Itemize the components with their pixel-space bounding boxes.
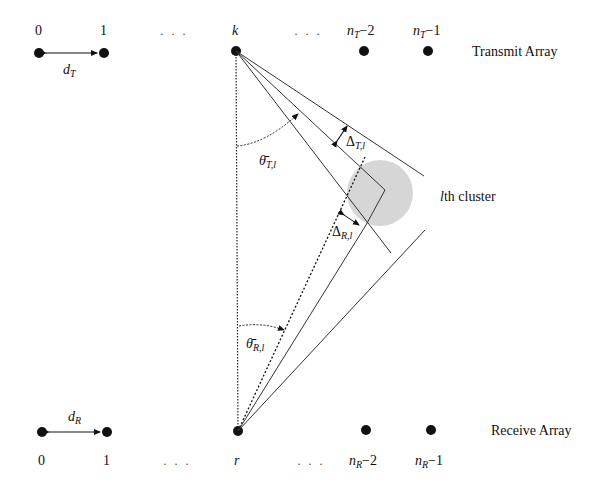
minus-two: −2	[362, 453, 377, 468]
T-l-subscript: T,l	[266, 159, 276, 170]
dR-label: dR	[68, 410, 81, 426]
minus-one: −1	[428, 453, 443, 468]
theta-T-label: θ̄T,l	[259, 154, 276, 170]
rx-index-1: 1	[103, 454, 110, 468]
T-subscript: T	[70, 68, 76, 79]
tx-index-0: 0	[35, 24, 42, 38]
n-symbol: n	[413, 23, 420, 38]
n-symbol: n	[349, 453, 356, 468]
R-l-subscript: R,l	[341, 230, 352, 241]
theta-T-arc	[237, 114, 298, 146]
rx-index-0: 0	[38, 454, 45, 468]
delta-T-label: ΔT,l	[346, 135, 365, 151]
receive-beam	[238, 225, 425, 431]
tx-index-nT-2: nT−2	[347, 24, 374, 40]
rx-index-r: r	[234, 454, 239, 468]
T-l-subscript: T,l	[355, 140, 365, 151]
R-l-subscript: R,l	[253, 342, 264, 353]
delta-symbol: Δ	[332, 224, 341, 239]
minus-two: −2	[360, 23, 375, 38]
dT-label: dT	[63, 63, 76, 79]
n-symbol: n	[415, 453, 422, 468]
rx-index-nR-1: nR−1	[415, 454, 443, 470]
theta-R-arc	[239, 325, 284, 330]
R-subscript: R	[75, 415, 81, 426]
d-symbol: d	[68, 409, 75, 424]
transmit-beam	[236, 51, 424, 253]
rx-index-nR-2: nR−2	[349, 454, 377, 470]
receive-array-title: Receive Array	[491, 424, 571, 438]
tx-index-k: k	[232, 24, 238, 38]
cluster-text: th cluster	[444, 189, 496, 204]
theta-symbol: θ̄	[246, 336, 253, 351]
rx-ellipsis-1: · · ·	[163, 457, 191, 472]
theta-R-label: θ̄R,l	[246, 337, 264, 353]
cluster-circle	[347, 160, 413, 226]
delta-symbol: Δ	[346, 134, 355, 149]
tx-ellipsis-1: · · ·	[160, 27, 188, 42]
n-symbol: n	[347, 23, 354, 38]
transmit-nodes	[34, 46, 433, 58]
transmit-array-title: Transmit Array	[472, 45, 557, 59]
tx-index-1: 1	[100, 24, 107, 38]
cluster-label: lth cluster	[440, 190, 496, 204]
rx-ellipsis-2: · · ·	[297, 457, 325, 472]
delta-R-label: ΔR,l	[332, 225, 352, 241]
delta-R-arrow	[344, 215, 359, 225]
broadside-line	[236, 51, 238, 431]
theta-symbol: θ̄	[259, 153, 266, 168]
d-symbol: d	[63, 62, 70, 77]
receive-nodes	[37, 425, 436, 437]
tx-ellipsis-2: · · ·	[294, 27, 322, 42]
tx-index-nT-1: nT−1	[413, 24, 440, 40]
minus-one: −1	[426, 23, 441, 38]
receive-dotted	[238, 157, 365, 431]
